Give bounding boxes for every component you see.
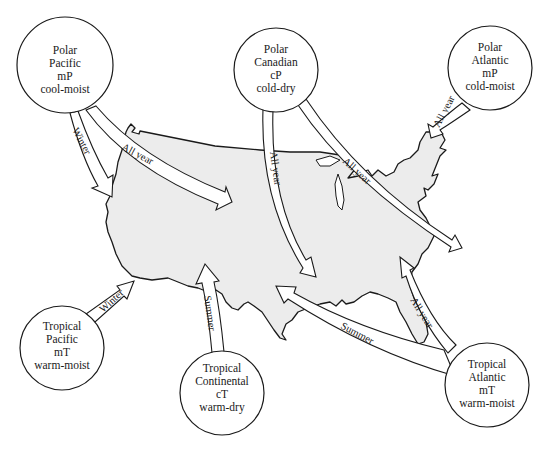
- text-line-3: cT: [216, 388, 228, 400]
- text-line-2: Atlantic: [468, 371, 505, 383]
- text-line-3: mT: [54, 346, 70, 358]
- air-mass-tropical-pacific: Tropical Pacific mT warm-moist: [20, 306, 104, 390]
- text-line-4: warm-dry: [199, 401, 245, 414]
- text-line-2: Pacific: [46, 333, 78, 345]
- text-line-2: Continental: [195, 375, 249, 387]
- text-line-4: warm-moist: [459, 397, 515, 409]
- text-line-4: cold-moist: [465, 80, 515, 92]
- text-line-3: mP: [57, 70, 72, 82]
- label-tropical-pacific-winter: Winter: [97, 287, 126, 315]
- text-line-4: warm-moist: [34, 359, 90, 371]
- air-mass-tropical-atlantic: Tropical Atlantic mT warm-moist: [445, 343, 529, 427]
- text-line-3: mP: [482, 67, 497, 79]
- text-line-1: Polar: [264, 43, 288, 55]
- text-line-1: Polar: [478, 41, 502, 53]
- text-line-4: cool-moist: [40, 83, 90, 95]
- text-line-1: Tropical: [43, 320, 82, 333]
- text-line-1: Tropical: [468, 358, 507, 371]
- air-mass-polar-atlantic: Polar Atlantic mP cold-moist: [448, 26, 532, 110]
- air-mass-tropical-continental: Tropical Continental cT warm-dry: [180, 351, 264, 435]
- air-mass-diagram: Winter All year All year All year All ye…: [0, 0, 545, 452]
- text-line-4: cold-dry: [257, 82, 296, 95]
- text-line-2: Atlantic: [471, 54, 508, 66]
- air-mass-polar-pacific: Polar Pacific mP cool-moist: [17, 17, 113, 113]
- text-line-2: Pacific: [49, 57, 81, 69]
- text-line-3: mT: [479, 384, 495, 396]
- text-line-3: cP: [270, 69, 282, 81]
- text-line-2: Canadian: [254, 56, 298, 68]
- air-mass-polar-canadian: Polar Canadian cP cold-dry: [234, 28, 318, 112]
- text-line-1: Tropical: [203, 362, 242, 375]
- text-line-1: Polar: [53, 44, 77, 56]
